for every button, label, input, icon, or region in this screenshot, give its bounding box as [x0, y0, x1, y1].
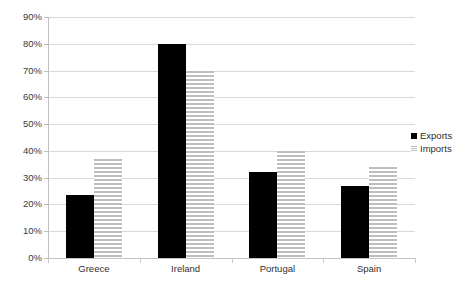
bar-greece-exports[interactable]: [66, 195, 94, 258]
x-axis-separator-tick: [140, 258, 141, 263]
bar-chart: 0%10%20%30%40%50%60%70%80%90% GreeceIrel…: [0, 0, 471, 284]
x-axis-separator-tick: [232, 258, 233, 263]
y-axis-tick-label: 60%: [2, 93, 42, 103]
legend-label-imports: Imports: [420, 144, 452, 154]
y-axis-tick-label: 10%: [2, 226, 42, 236]
y-axis-labels: 0%10%20%30%40%50%60%70%80%90%: [0, 0, 42, 284]
legend-item-imports[interactable]: Imports: [411, 142, 469, 155]
bar-portugal-exports[interactable]: [249, 172, 277, 258]
legend-label-exports: Exports: [420, 131, 452, 141]
bar-group: [48, 17, 140, 258]
bar-ireland-imports[interactable]: [186, 71, 214, 258]
y-axis-tick: [44, 44, 48, 45]
y-axis-tick: [44, 71, 48, 72]
y-axis-tick-label: 40%: [2, 146, 42, 156]
x-axis-separator-tick: [323, 258, 324, 263]
x-axis-separator-tick: [415, 258, 416, 263]
bar-portugal-imports[interactable]: [277, 151, 305, 258]
bar-spain-imports[interactable]: [369, 167, 397, 258]
y-axis-tick: [44, 97, 48, 98]
y-axis-tick-label: 30%: [2, 173, 42, 183]
y-axis-tick: [44, 258, 48, 259]
bar-greece-imports[interactable]: [94, 159, 122, 258]
y-axis-tick: [44, 124, 48, 125]
legend-item-exports[interactable]: Exports: [411, 129, 469, 142]
bar-group: [232, 17, 324, 258]
y-axis-tick-label: 70%: [2, 66, 42, 76]
y-axis-tick: [44, 17, 48, 18]
x-axis-category-label: Portugal: [260, 264, 295, 274]
y-axis-tick-label: 50%: [2, 119, 42, 129]
bars-layer: [48, 17, 415, 258]
bar-group: [140, 17, 232, 258]
y-axis-tick: [44, 178, 48, 179]
legend-swatch-imports-icon: [411, 146, 417, 152]
bar-spain-exports[interactable]: [341, 186, 369, 258]
y-axis-tick: [44, 231, 48, 232]
x-axis-category-label: Greece: [78, 264, 109, 274]
y-axis-tick: [44, 204, 48, 205]
legend-swatch-exports-icon: [411, 133, 417, 139]
y-axis-tick-label: 80%: [2, 39, 42, 49]
y-axis-tick-label: 90%: [2, 12, 42, 22]
x-axis-category-label: Ireland: [171, 264, 200, 274]
x-axis-separator-tick: [48, 258, 49, 263]
y-axis-tick-label: 0%: [2, 253, 42, 263]
chart-legend: Exports Imports: [411, 129, 469, 155]
x-axis-category-label: Spain: [357, 264, 381, 274]
bar-ireland-exports[interactable]: [158, 44, 186, 258]
y-axis-tick-label: 20%: [2, 200, 42, 210]
bar-group: [323, 17, 415, 258]
y-axis-tick: [44, 151, 48, 152]
